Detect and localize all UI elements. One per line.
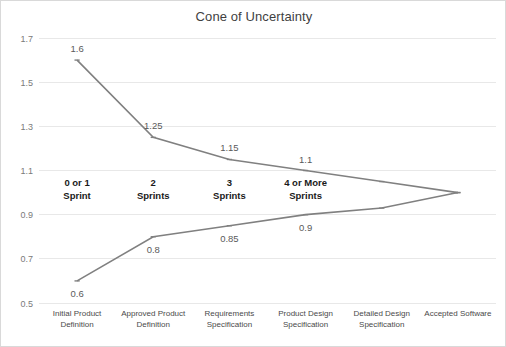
x-axis-category-label: Product Design xyxy=(278,309,333,318)
y-axis-tick-label: 1.5 xyxy=(20,78,33,88)
series-line-2 xyxy=(77,193,458,281)
data-point-label: 0.6 xyxy=(70,288,83,299)
y-axis-tick-label: 1.7 xyxy=(20,34,33,44)
sprint-annotation-label: Sprints xyxy=(289,190,322,201)
sprint-annotation-label: Sprints xyxy=(213,190,246,201)
x-axis-category-label: Definition xyxy=(137,320,170,329)
x-axis-category-label: Specification xyxy=(359,320,404,329)
y-axis-tick-label: 0.9 xyxy=(20,210,33,220)
data-point-label: 0.85 xyxy=(220,233,239,244)
x-axis-category-label: Accepted Software xyxy=(424,309,492,318)
sprint-annotation-label: 0 or 1 xyxy=(64,177,90,188)
x-axis-category-label: Initial Product xyxy=(53,309,102,318)
sprint-annotation-label: 4 or More xyxy=(284,177,327,188)
data-point-label: 1.6 xyxy=(70,43,83,54)
x-axis-category-label: Specification xyxy=(207,320,252,329)
x-axis-category-label: Specification xyxy=(283,320,328,329)
x-axis-category-label: Approved Product xyxy=(121,309,186,318)
sprint-annotation-label: Sprint xyxy=(63,190,91,201)
x-axis-category-label: Detailed Design xyxy=(354,309,410,318)
data-point-label: 0.8 xyxy=(147,244,160,255)
sprint-annotation-label: Sprints xyxy=(137,190,170,201)
y-axis-tick-label: 0.5 xyxy=(20,299,33,309)
y-axis-tick-label: 0.7 xyxy=(20,254,33,264)
chart-container: Cone of Uncertainty 0.50.70.91.11.31.51.… xyxy=(0,0,506,347)
x-axis-category-label: Requirements xyxy=(205,309,255,318)
data-point-label: 1.1 xyxy=(299,154,312,165)
sprint-annotation-label: 3 xyxy=(227,177,232,188)
data-point-label: 0.9 xyxy=(299,222,312,233)
sprint-annotation-label: 2 xyxy=(151,177,156,188)
y-axis-tick-label: 1.1 xyxy=(20,166,33,176)
chart-plot-area: 0.50.70.91.11.31.51.71.61.251.151.10.60.… xyxy=(1,1,506,347)
data-point-label: 1.15 xyxy=(220,142,239,153)
y-axis-tick-label: 1.3 xyxy=(20,122,33,132)
x-axis-category-label: Definition xyxy=(60,320,93,329)
data-point-label: 1.25 xyxy=(144,120,163,131)
